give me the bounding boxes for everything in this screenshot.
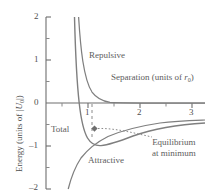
- attractive-label: Attractive: [88, 155, 124, 165]
- total-label: Total: [51, 124, 69, 134]
- repulsive-curve: [79, 17, 205, 103]
- equilibrium-label: Equilibrium at minimum: [152, 137, 196, 159]
- repulsive-label: Repulsive: [89, 50, 125, 60]
- y-tick-label-2: 2: [34, 11, 39, 21]
- energy-vs-separation-chart: 2 1 0 –1 –2 1 2 3 Energy (units of |U0|)…: [0, 0, 214, 194]
- y-axis-label-sub: 0: [19, 100, 25, 103]
- y-axis-label-text: Energy (units of |: [14, 110, 24, 172]
- y-axis-label: Energy (units of |U0|): [14, 95, 25, 172]
- x-axis-label-text: Separation (units of: [111, 72, 184, 82]
- y-axis-label-tail: |): [14, 95, 24, 100]
- y-tick-label-1: 1: [34, 54, 39, 64]
- y-tick-label-0: 0: [34, 97, 39, 107]
- y-tick-label-minus-1: –1: [29, 140, 38, 150]
- x-tick-label-1: 1: [85, 107, 90, 117]
- y-tick-label-minus-2: –2: [29, 182, 38, 192]
- y-axis-label-var: U: [14, 103, 24, 110]
- x-axis-label: Separation (units of r0): [111, 72, 194, 83]
- equilibrium-label-line2: at minimum: [152, 148, 196, 158]
- x-tick-label-3: 3: [189, 107, 194, 117]
- x-axis-label-tail: ): [191, 72, 194, 82]
- x-tick-label-2: 2: [137, 107, 142, 117]
- equilibrium-label-line1: Equilibrium: [152, 137, 196, 147]
